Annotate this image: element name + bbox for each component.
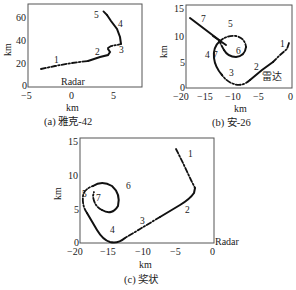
- segment-label: 6: [236, 46, 241, 56]
- y-tick: 20: [16, 58, 26, 69]
- segment-label: 3: [229, 68, 234, 78]
- track-segment-6: [224, 47, 246, 57]
- x-axis-label: km: [66, 102, 79, 113]
- segment-label: 5: [228, 19, 233, 29]
- panel-b: 15 10 5 0 −20 −15 −10 −5 0 km km (b) 安-2…: [158, 3, 293, 129]
- radar-label: 雷达: [262, 71, 282, 82]
- radar-label: Radar: [215, 236, 240, 247]
- segment-label: 4: [118, 19, 123, 29]
- x-axis-label: km: [234, 103, 247, 114]
- y-tick: 5: [74, 204, 79, 215]
- x-tick: −20: [67, 246, 83, 257]
- panel-caption: (b) 安-26: [212, 116, 251, 129]
- plot-frame: [28, 4, 142, 87]
- track-segment-3: [222, 75, 250, 85]
- x-axis-label: km: [139, 259, 152, 270]
- track-segment-1: [41, 61, 88, 69]
- segment-label: 2: [95, 47, 100, 57]
- y-axis-label: km: [158, 45, 169, 58]
- segment-label: 2: [185, 205, 190, 215]
- segment-label: 7: [213, 50, 218, 60]
- panel-caption: (c) 奖状: [124, 273, 159, 286]
- segment-label: 5: [82, 189, 87, 199]
- radar-label: Radar: [61, 76, 86, 87]
- segment-label: 1: [54, 55, 59, 65]
- x-tick: 0: [288, 91, 293, 102]
- x-tick: −15: [100, 246, 116, 257]
- x-tick: −5: [170, 246, 181, 257]
- panel-a: 60 40 20 0 −5 0 5 km km (a) 雅克-42 Radar …: [2, 4, 142, 128]
- track-segment-2: [160, 188, 195, 217]
- track-segment-5: [103, 11, 107, 15]
- segment-label: 1: [280, 39, 285, 49]
- y-tick: 10: [174, 31, 184, 42]
- track-segment-5: [219, 36, 246, 47]
- segment-label: 4: [110, 225, 115, 235]
- segment-label: 3: [119, 45, 124, 55]
- segment-label: 5: [94, 10, 99, 20]
- segment-label: 7: [201, 14, 206, 24]
- figure: 60 40 20 0 −5 0 5 km km (a) 雅克-42 Radar …: [0, 0, 296, 290]
- x-tick: −5: [253, 91, 264, 102]
- x-tick: −15: [197, 91, 213, 102]
- panel-caption: (a) 雅克-42: [44, 115, 92, 128]
- y-tick: 15: [174, 3, 184, 14]
- y-axis-label: km: [2, 43, 13, 56]
- panel-c: 15 10 5 0 −20 −15 −10 −5 0 km km (c) 奖状 …: [52, 136, 240, 286]
- y-tick: 10: [68, 170, 78, 181]
- x-tick: 5: [111, 90, 116, 101]
- y-tick: 60: [16, 12, 26, 23]
- x-tick: −10: [225, 91, 241, 102]
- segment-label: 7: [96, 193, 101, 203]
- x-tick: 0: [69, 90, 74, 101]
- segment-label: 2: [254, 62, 259, 72]
- x-tick: −20: [173, 91, 189, 102]
- x-tick: −5: [21, 90, 32, 101]
- segment-label: 6: [126, 181, 131, 191]
- x-tick: 0: [210, 246, 215, 257]
- x-tick: −10: [135, 246, 151, 257]
- track-segment-4: [87, 213, 125, 243]
- segment-label: 4: [205, 50, 210, 60]
- y-tick: 5: [180, 57, 185, 68]
- segment-label: 1: [188, 149, 193, 159]
- segment-label: 3: [140, 216, 145, 226]
- y-tick: 40: [16, 35, 26, 46]
- y-axis-label: km: [52, 187, 63, 200]
- y-tick: 15: [68, 136, 78, 147]
